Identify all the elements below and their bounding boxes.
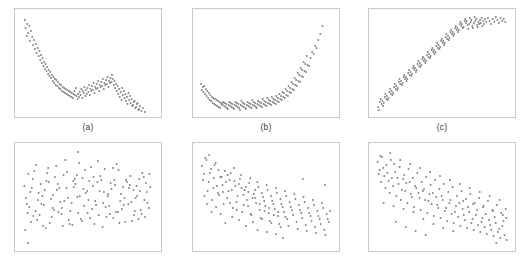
panel-caption-c: (c) bbox=[368, 122, 516, 132]
panel-e: (e) bbox=[192, 142, 340, 252]
panel-d: (d) bbox=[14, 142, 162, 252]
panel-caption-b: (b) bbox=[192, 122, 340, 132]
panel-caption-a: (a) bbox=[14, 122, 162, 132]
scatter-svg-d bbox=[15, 143, 162, 252]
panel-f: (f) bbox=[368, 142, 516, 252]
plot-area-b bbox=[192, 8, 340, 118]
panel-b: (b) bbox=[192, 8, 340, 118]
plot-area-a bbox=[14, 8, 162, 118]
plot-area-c bbox=[368, 8, 516, 118]
plot-area-e bbox=[192, 142, 340, 252]
scatter-svg-c bbox=[369, 9, 516, 118]
scatter-svg-e bbox=[193, 143, 340, 252]
scatter-svg-a bbox=[15, 9, 162, 118]
plot-area-f bbox=[368, 142, 516, 252]
panel-c: (c) bbox=[368, 8, 516, 118]
plot-area-d bbox=[14, 142, 162, 252]
panel-a: (a) bbox=[14, 8, 162, 118]
scatterplot-figure: (a) (b) (c) (d) (e) (f) bbox=[0, 0, 529, 277]
scatter-svg-f bbox=[369, 143, 516, 252]
scatter-svg-b bbox=[193, 9, 340, 118]
